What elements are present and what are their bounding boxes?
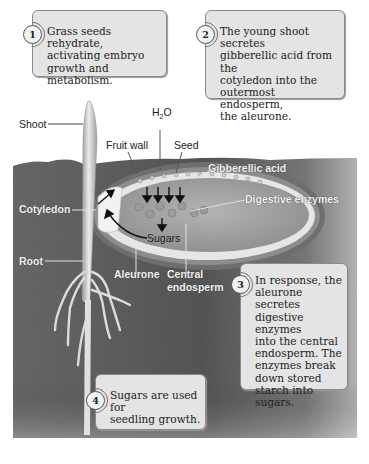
step-1-box: 1 Grass seeds rehydrate, activating embr… xyxy=(32,10,167,77)
label-fruit-wall: Fruit wall xyxy=(106,139,148,151)
step-4-line: seedling growth. xyxy=(110,413,201,425)
label-h2o: H2O xyxy=(152,106,172,120)
step-3-line: In response, the xyxy=(255,274,343,286)
label-cotyledon: Cotyledon xyxy=(19,203,70,215)
label-digestive-enzymes: Digestive enzymes xyxy=(245,193,339,205)
label-gibberellic-acid: Gibberellic acid xyxy=(208,162,286,174)
step-3-line: enzymes break xyxy=(255,359,343,371)
step-4-line: Sugars are used for xyxy=(110,389,201,413)
seed xyxy=(89,162,325,270)
label-central-endosperm: Centralendosperm xyxy=(167,268,224,294)
step-1-line: activating embryo xyxy=(47,49,162,61)
label-shoot: Shoot xyxy=(19,118,46,130)
step-2-line: cotyledon into the xyxy=(220,74,340,86)
step-2-line: gibberellic acid from the xyxy=(220,49,340,73)
label-seed: Seed xyxy=(174,139,199,151)
step-2-line: outermost endosperm, xyxy=(220,86,340,110)
step-1-number-icon: 1 xyxy=(23,25,42,44)
step-3-number-icon: 3 xyxy=(231,275,250,294)
step-4-text: Sugars are used for seedling growth. xyxy=(110,389,201,426)
endosperm-line: endosperm xyxy=(167,281,224,293)
label-root: Root xyxy=(19,255,43,267)
h2o-o: O xyxy=(164,106,172,118)
step-3-line: aleurone secretes xyxy=(255,286,343,310)
h2o-h: H xyxy=(152,106,160,118)
central-line: Central xyxy=(167,268,203,280)
step-3-line: down stored xyxy=(255,372,343,384)
step-3-line: starch into sugars. xyxy=(255,384,343,408)
label-aleurone: Aleurone xyxy=(114,268,160,280)
step-1-line: Grass seeds rehydrate, xyxy=(47,25,162,49)
step-3-line: endosperm. The xyxy=(255,347,343,359)
step-3-line: digestive enzymes xyxy=(255,311,343,335)
step-4-box: 4 Sugars are used for seedling growth. xyxy=(95,374,206,430)
label-sugars: Sugars xyxy=(147,232,180,244)
step-2-text: The young shoot secretes gibberellic aci… xyxy=(220,25,340,123)
step-3-text: In response, the aleurone secretes diges… xyxy=(255,274,343,408)
step-4-number-icon: 4 xyxy=(86,391,105,410)
step-1-line: growth and metabolism. xyxy=(47,62,162,86)
step-2-line: the aleurone. xyxy=(220,110,340,122)
step-1-text: Grass seeds rehydrate, activating embryo… xyxy=(47,25,162,86)
step-2-number-icon: 2 xyxy=(196,25,215,44)
step-3-line: into the central xyxy=(255,335,343,347)
step-2-box: 2 The young shoot secretes gibberellic a… xyxy=(205,10,345,99)
step-3-box: 3 In response, the aleurone secretes dig… xyxy=(240,263,348,390)
step-2-line: The young shoot secretes xyxy=(220,25,340,49)
